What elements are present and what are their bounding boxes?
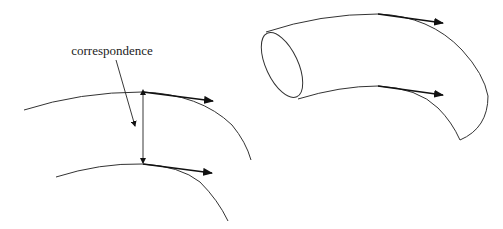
left-panel: correspondence: [24, 43, 251, 221]
bottom-tangent-arrow: [378, 86, 443, 95]
tube-top-edge: [266, 14, 488, 140]
inner-tangent-arrow: [143, 164, 212, 173]
outer-curve: [24, 92, 251, 160]
outer-tangent-arrow: [143, 92, 213, 101]
right-panel: [253, 14, 488, 140]
correspondence-label: correspondence: [71, 43, 153, 58]
tube-opening-ellipse: [253, 27, 312, 104]
top-tangent-arrow: [378, 14, 443, 23]
diagram-canvas: correspondence: [0, 0, 503, 229]
